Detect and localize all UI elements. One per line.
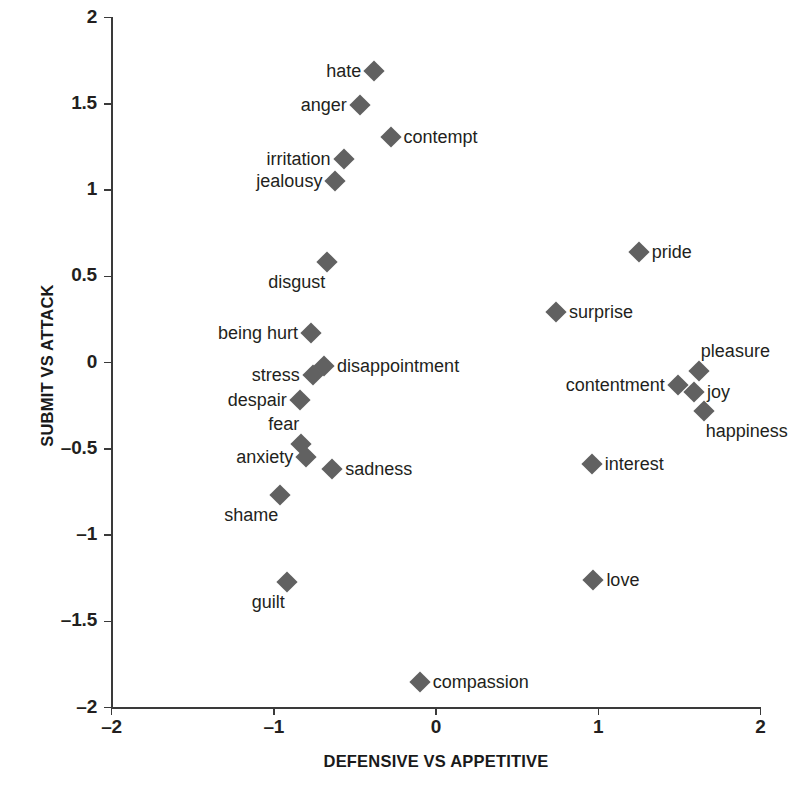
y-tick-mark [104,189,111,191]
x-tick-mark [435,708,437,715]
diamond-marker-icon [289,390,310,411]
diamond-marker-icon [688,361,709,382]
data-point-label: stress [252,366,300,384]
diamond-marker-icon [380,126,401,147]
data-point-label: surprise [569,303,633,321]
y-tick-mark [104,276,111,278]
x-tick-label: 0 [406,716,466,738]
diamond-marker-icon [322,459,343,480]
y-tick-mark [104,621,111,623]
data-point-label: shame [224,506,278,524]
diamond-marker-icon [325,171,346,192]
data-point-label: jealousy [256,172,322,190]
data-point-label: contentment [566,376,665,394]
diamond-marker-icon [349,95,370,116]
data-point-label: contempt [404,128,478,146]
x-tick-label: –1 [244,716,304,738]
y-tick-mark [104,448,111,450]
data-point-label: sadness [345,460,412,478]
data-point-label: interest [605,455,664,473]
x-tick-label: 2 [731,716,791,738]
x-tick-mark [598,708,600,715]
y-tick-mark [104,534,111,536]
diamond-marker-icon [270,485,291,506]
data-point-label: guilt [252,593,285,611]
data-point-label: joy [707,383,730,401]
y-axis-title: SUBMIT VS ATTACK [38,21,57,711]
diamond-marker-icon [628,241,649,262]
x-tick-mark [273,708,275,715]
data-point-label: disgust [268,273,325,291]
x-tick-mark [111,708,113,715]
scatter-plot: 21.510.50–0.5–1–1.5–2 –2–1012 hateangerc… [0,0,800,790]
diamond-marker-icon [583,569,604,590]
data-point-label: pride [652,243,692,261]
x-tick-label: –2 [82,716,142,738]
data-point-label: anger [301,96,347,114]
data-point-label: happiness [706,422,788,440]
data-point-label: irritation [266,150,330,168]
diamond-marker-icon [317,252,338,273]
diamond-marker-icon [545,302,566,323]
data-point-label: compassion [433,673,529,691]
data-point-label: being hurt [218,324,298,342]
data-point-label: fear [268,415,299,433]
data-point-label: despair [228,391,287,409]
diamond-marker-icon [693,400,714,421]
diamond-marker-icon [276,571,297,592]
diamond-marker-icon [300,323,321,344]
x-tick-mark [760,708,762,715]
diamond-marker-icon [409,671,430,692]
x-tick-label: 1 [568,716,628,738]
x-axis-title: DEFENSIVE VS APPETITIVE [111,752,761,771]
y-tick-mark [104,103,111,105]
data-point-label: anxiety [236,448,293,466]
y-tick-mark [104,362,111,364]
diamond-marker-icon [333,148,354,169]
diamond-marker-icon [364,60,385,81]
data-point-label: hate [326,62,361,80]
y-tick-mark [104,17,111,19]
data-point-label: disappointment [337,357,459,375]
data-point-label: love [606,571,639,589]
data-point-label: pleasure [701,342,770,360]
diamond-marker-icon [581,454,602,475]
y-axis-line [111,17,113,708]
